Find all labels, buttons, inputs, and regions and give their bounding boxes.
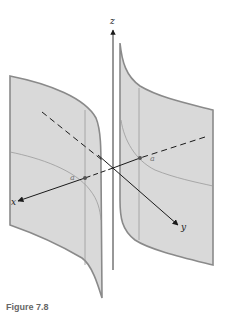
y-axis-label: y <box>180 222 187 232</box>
z-axis-label: z <box>109 16 115 26</box>
left-surface-sheet <box>10 76 102 298</box>
figure-caption: Figure 7.8 <box>6 302 49 312</box>
point-a-left <box>83 176 87 180</box>
point-a-right-label: a <box>150 154 155 163</box>
x-axis-label: x <box>11 197 16 207</box>
point-a-left-label: a <box>70 173 75 182</box>
point-a-right <box>138 156 142 160</box>
right-surface-sheet <box>120 43 213 265</box>
